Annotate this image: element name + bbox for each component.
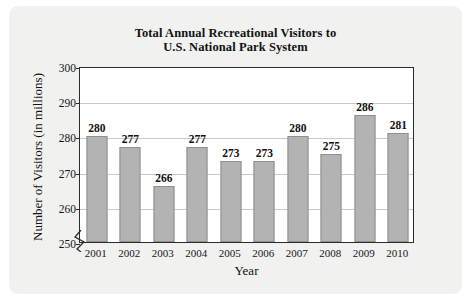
bar-slot: 280 [80, 68, 114, 242]
bar-value-label: 275 [323, 140, 340, 152]
bar-value-label: 273 [222, 147, 239, 159]
bars-layer: 280277266277273273280275286281 [80, 68, 413, 242]
bar[interactable] [187, 147, 208, 242]
bar[interactable] [220, 161, 241, 242]
x-tick-label: 2010 [386, 247, 408, 259]
x-tick-label: 2007 [286, 247, 308, 259]
bar-value-label: 277 [122, 133, 139, 145]
chart-title: Total Annual Recreational Visitors to U.… [9, 26, 462, 54]
bar-slot: 275 [315, 68, 349, 242]
figure-card: Total Annual Recreational Visitors to U.… [9, 6, 462, 294]
bar-value-label: 280 [88, 122, 105, 134]
bar-slot: 266 [147, 68, 181, 242]
bar[interactable] [287, 136, 308, 242]
x-tick-label: 2003 [152, 247, 174, 259]
y-axis-title: Number of Visitors (in millions) [30, 67, 46, 247]
chart-title-line-1: Total Annual Recreational Visitors to [9, 26, 462, 40]
chart-title-line-2: U.S. National Park System [9, 40, 462, 54]
bar[interactable] [120, 147, 141, 242]
bar[interactable] [388, 133, 409, 242]
plot-area: 250260270280290300 280277266277273273280… [79, 67, 414, 243]
bar[interactable] [86, 136, 107, 242]
bar-slot: 277 [114, 68, 148, 242]
bar[interactable] [153, 186, 174, 242]
bar-value-label: 280 [289, 122, 306, 134]
x-axis-title: Year [79, 263, 414, 279]
bar[interactable] [354, 115, 375, 242]
bar-slot: 281 [382, 68, 416, 242]
bar-slot: 277 [181, 68, 215, 242]
bar-value-label: 281 [390, 119, 407, 131]
y-tick-label: 260 [59, 203, 76, 215]
x-tick-label: 2005 [219, 247, 241, 259]
bar-value-label: 266 [155, 172, 172, 184]
bar[interactable] [321, 154, 342, 242]
y-tick-label: 300 [59, 62, 76, 74]
bar-value-label: 277 [189, 133, 206, 145]
bar-slot: 280 [281, 68, 315, 242]
x-tick-label: 2008 [319, 247, 341, 259]
bar[interactable] [254, 161, 275, 242]
x-tick-label: 2001 [85, 247, 107, 259]
x-tick-label: 2006 [252, 247, 274, 259]
y-tick-label: 290 [59, 97, 76, 109]
x-tick-label: 2004 [185, 247, 207, 259]
bar-slot: 273 [248, 68, 282, 242]
bar-slot: 286 [348, 68, 382, 242]
bar-value-label: 286 [356, 101, 373, 113]
bar-slot: 273 [214, 68, 248, 242]
x-tick-label: 2009 [353, 247, 375, 259]
y-tick-label: 280 [59, 132, 76, 144]
y-tick-label: 270 [59, 168, 76, 180]
x-tick-label: 2002 [118, 247, 140, 259]
bar-value-label: 273 [256, 147, 273, 159]
